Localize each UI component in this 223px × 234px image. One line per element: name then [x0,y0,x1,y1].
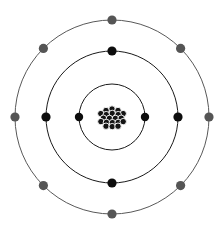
atom-canvas [0,0,223,234]
shell-3-electron [204,112,213,121]
bohr-atomic-model-diagram [0,0,223,234]
shell-2-electron [173,112,182,121]
shell-3-electron [107,209,116,218]
shell-1-electron [141,113,149,121]
shell-3-electron [107,15,116,24]
shell-3-electron [10,112,19,121]
shell-1-electron [75,113,83,121]
nucleon [115,123,121,129]
shell-2-electron [107,178,116,187]
nucleon [120,118,126,124]
shell-3-electron [39,44,48,53]
shell-3-electron [39,181,48,190]
shell-3-electron [176,181,185,190]
shell-3-electron [176,44,185,53]
shell-2-electron [107,46,116,55]
shell-2-electron [41,112,50,121]
nucleon [103,123,109,129]
